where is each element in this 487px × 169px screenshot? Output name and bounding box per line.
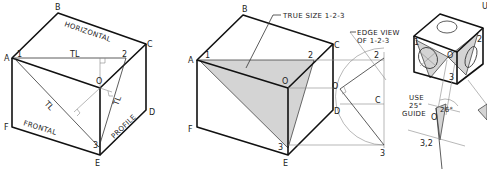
vertex-label-c: C [334,41,340,50]
right-angle-mark [77,109,80,116]
point-label-o: O [447,51,453,60]
face-label-frontal: FRONTAL [22,119,57,137]
projection-label-c: C [375,96,381,105]
perp-o-23 [100,88,112,92]
callout-edge-view-line1: EDGE VIEW [357,29,400,37]
point-label-1: 1 [17,50,22,59]
point-label-2: 2 [477,35,482,44]
descriptive-geometry-figure: B C A D F E O 1 2 3 HORIZONTAL FRONTAL P… [0,0,487,169]
perp-o-13 [74,88,100,112]
guide-text-line1: USE [409,94,424,102]
partial-wedge [478,104,487,120]
vertex-label-o: O [282,77,288,86]
cube-side-face [100,44,146,155]
face-label-profile: PROFILE [110,113,138,140]
fragment-label: U [482,2,487,11]
vertex-label-e: E [283,159,288,168]
vertex-label-e: E [95,159,100,168]
edge-label: 3,2 [420,139,433,148]
vertex-label-d: D [334,107,340,116]
point-label-3: 3 [278,143,283,152]
projection-label-o: O [332,82,338,91]
vertex-label-o: O [96,77,102,86]
vertex-label-b: B [242,5,248,14]
origin-label: O [431,113,437,122]
point-label-3: 3 [93,141,98,150]
point-label-3: 3 [449,73,454,82]
hole-ellipse-top [437,21,457,33]
point-label-1: 1 [205,51,210,60]
line-1-3 [14,58,99,147]
edge-view-line [340,58,384,89]
right-angle-mark [100,58,105,63]
true-length-label: TL [111,94,123,107]
callout-true-size: TRUE SIZE 1-2-3 [282,12,345,20]
projection-label-3: 3 [380,149,385,158]
vertex-label-f: F [188,125,193,134]
shaded-plane [416,40,448,78]
projection-line [468,80,487,105]
vertex-label-c: C [147,40,153,49]
vertex-label-f: F [4,123,9,132]
callout-edge-view-line2: OF 1-2-3 [357,37,390,45]
point-label-1: 1 [414,38,419,47]
vertex-label-a: A [188,56,194,65]
point-label-2: 2 [308,51,313,60]
true-length-label: TL [69,50,80,59]
projection-label-2: 2 [374,51,379,60]
guide-text-line2: 25° [409,102,422,110]
vertex-label-b: B [55,3,61,12]
angle-label: 26° [440,106,453,114]
shaded-plane-1-2-3 [199,60,314,148]
figure-right-cube: 1 O 2 3 U USE 25° GUIDE O 26° 3,2 [402,2,487,169]
true-length-label: TL [42,98,56,112]
vertex-label-d: D [149,108,155,117]
vertex-label-a: A [4,54,10,63]
figure-left-cube: B C A D F E O 1 2 3 HORIZONTAL FRONTAL P… [4,3,155,168]
point-label-2: 2 [122,50,127,59]
figure-middle-cube: TRUE SIZE 1-2-3 EDGE VIEW OF 1-2-3 B C A… [188,5,400,168]
guide-text-line3: GUIDE [402,110,426,118]
reference-line [408,130,465,146]
